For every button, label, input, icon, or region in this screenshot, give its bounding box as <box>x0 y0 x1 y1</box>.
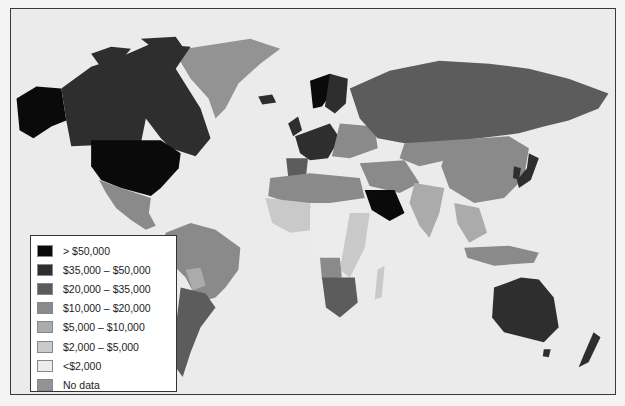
legend-swatch <box>37 379 53 391</box>
legend-label: No data <box>63 379 100 391</box>
region-iberia[interactable] <box>286 158 308 176</box>
region-southeast-asia[interactable] <box>454 203 487 243</box>
legend-item: $2,000 – $5,000 <box>37 337 170 356</box>
legend-label: $20,000 – $35,000 <box>63 283 151 295</box>
legend-label: > $50,000 <box>63 245 110 257</box>
legend-swatch <box>37 321 53 333</box>
legend-item: $35,000 – $50,000 <box>37 260 170 279</box>
legend-item: <$2,000 <box>37 356 170 375</box>
legend-item: > $50,000 <box>37 241 170 260</box>
region-southern-africa[interactable] <box>322 278 358 318</box>
legend-item: $5,000 – $10,000 <box>37 318 170 337</box>
map-legend: > $50,000 $35,000 – $50,000 $20,000 – $3… <box>30 235 177 392</box>
legend-swatch <box>37 283 53 295</box>
legend-label: $35,000 – $50,000 <box>63 264 151 276</box>
legend-label: $5,000 – $10,000 <box>63 321 145 333</box>
region-saudi-arabia[interactable] <box>365 190 405 221</box>
region-uk[interactable] <box>288 116 302 136</box>
region-alaska[interactable] <box>17 87 67 139</box>
legend-swatch <box>37 245 53 257</box>
region-russia[interactable] <box>350 61 609 144</box>
legend-swatch <box>37 302 53 314</box>
region-new-zealand[interactable] <box>579 332 601 367</box>
region-madagascar[interactable] <box>375 266 385 300</box>
legend-swatch <box>37 341 53 353</box>
region-north-africa[interactable] <box>268 173 364 203</box>
legend-item: $10,000 – $20,000 <box>37 299 170 318</box>
region-middle-east[interactable] <box>360 160 420 193</box>
legend-item: No data <box>37 375 170 394</box>
region-iceland[interactable] <box>258 95 276 105</box>
legend-swatch <box>37 360 53 372</box>
region-argentina-chile[interactable] <box>176 288 216 378</box>
legend-label: $2,000 – $5,000 <box>63 341 139 353</box>
legend-swatch <box>37 264 53 276</box>
region-indonesia[interactable] <box>464 246 539 266</box>
region-west-africa[interactable] <box>265 198 315 233</box>
region-australia[interactable] <box>492 278 559 343</box>
legend-item: $20,000 – $35,000 <box>37 279 170 298</box>
region-angola[interactable] <box>320 258 342 280</box>
legend-label: <$2,000 <box>63 360 101 372</box>
region-tasmania[interactable] <box>543 349 551 357</box>
legend-label: $10,000 – $20,000 <box>63 302 151 314</box>
map-frame: > $50,000 $35,000 – $50,000 $20,000 – $3… <box>10 8 616 395</box>
region-india[interactable] <box>409 183 444 238</box>
